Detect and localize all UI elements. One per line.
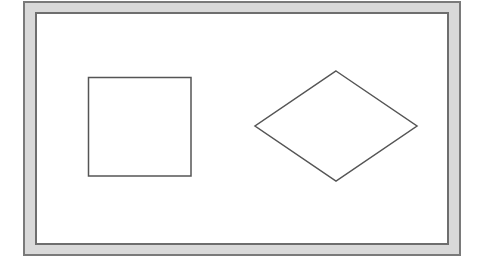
diamond-shape (255, 71, 417, 181)
shapes-layer (0, 0, 489, 268)
square-shape (89, 78, 192, 177)
